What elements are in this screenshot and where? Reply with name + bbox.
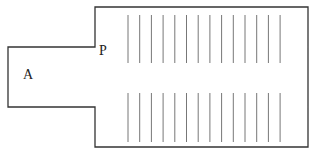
building-outline: [8, 7, 308, 147]
label-a: A: [23, 67, 34, 82]
floor-plan-diagram: A P: [0, 0, 313, 162]
label-p: P: [99, 43, 107, 58]
upper-row-lines: [128, 15, 280, 63]
lower-row-lines: [128, 93, 280, 142]
